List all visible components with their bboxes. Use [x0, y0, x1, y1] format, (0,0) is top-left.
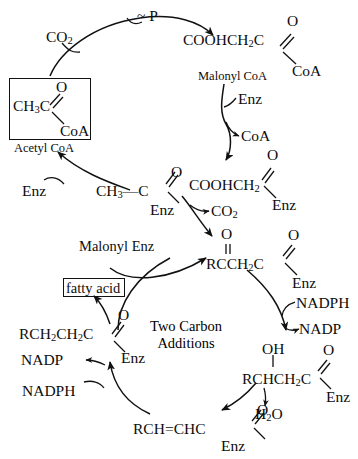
fatty-acid-label: fatty acid: [66, 281, 120, 296]
arrow-enz-in-hook-top: [224, 98, 236, 107]
acyl-carbonyl-oxygen: O: [118, 307, 129, 323]
acetyl-enz-carbonyl-oxygen: O: [171, 164, 182, 180]
ketoacyl-ketone-oxygen: O: [221, 226, 232, 242]
ketoacyl-carbonyl-oxygen: O: [288, 227, 299, 243]
malonyl-enz-thiol-label: Enz: [272, 197, 296, 213]
nadp-right-label: NADP: [299, 321, 341, 337]
malonyl-enz-carbonyl-oxygen: O: [267, 147, 278, 163]
malonyl-coa-structure: COOHCH2C: [183, 32, 264, 48]
acetyl-coa-carbonyl-oxygen: O: [56, 79, 67, 95]
acetyl-coa-caption: Acetyl CoA: [14, 142, 74, 155]
enoyl-enz-structure: RCH=CHC: [133, 421, 206, 437]
cycle-title-line2: Additions: [140, 335, 232, 352]
bond-hydroxyacyl-carbonyl-b: [321, 363, 330, 374]
hydroxyacyl-enz-thiol-label: Enz: [326, 389, 350, 405]
enoyl-carbonyl-oxygen: O: [257, 402, 268, 418]
acetyl-coa-structure: CH3C: [13, 98, 50, 114]
bond-ketoacyl-carbonyl-a: [283, 245, 292, 256]
acetyl-coa-thiol-label: CoA: [60, 123, 89, 139]
hydroxyacyl-carbonyl-oxygen: O: [323, 342, 334, 358]
hydroxyacyl-enz-structure: RCHCH2C: [242, 371, 311, 387]
nadph-right-label: NADPH: [296, 295, 349, 311]
bond-acyl-carbonyl-a: [112, 322, 121, 334]
ketoacyl-enz-thiol-label: Enz: [292, 275, 316, 291]
arrow-acyl-to-fatty-acid: [94, 296, 110, 324]
bond-acyl-carbonyl-b: [115, 325, 124, 337]
acetyl-enz-structure: CH3—C: [96, 183, 149, 199]
bond-malonylcoa-carbonyl-a: [280, 34, 291, 46]
malonyl-enz-name-label: Malonyl Enz: [79, 239, 154, 254]
malonyl-coa-name-label: Malonyl CoA: [198, 70, 267, 83]
arrow-condensation-to-ketoacyl: [182, 196, 212, 236]
acyl-enz-structure: RCH2CH2C: [19, 326, 93, 342]
bond-hydroxyacyl-carbonyl-a: [318, 360, 327, 371]
nadph-left-label: NADPH: [22, 383, 75, 399]
nadp-left-label: NADP: [21, 352, 63, 368]
ketoacyl-enz-structure: RCCH2C: [206, 256, 264, 272]
arrow-malonylcoa-to-malonylenz: [222, 84, 231, 160]
arrow-co2-release-hook: [190, 205, 209, 211]
bond-malonylenz-carbonyl-b: [265, 171, 274, 183]
arrow-nadp-out-hook-left: [86, 360, 105, 365]
bond-ketoacyl-carbonyl-b: [286, 248, 295, 259]
arrow-malonylenz-into-cycle: [110, 258, 206, 278]
co2-input-label: CO2: [46, 29, 73, 45]
malonyl-coa-thiol-label: CoA: [292, 63, 321, 79]
enz-released-left-label: Enz: [22, 183, 46, 199]
coa-released-label: CoA: [241, 128, 270, 144]
arrow-nadph-in-hook-left: [84, 381, 104, 388]
malonyl-coa-carbonyl-oxygen: O: [287, 13, 298, 29]
cycle-center-title: Two Carbon Additions: [140, 318, 232, 352]
arrow-hydroxyacyl-to-enoyl: [222, 383, 256, 410]
malonyl-enz-structure: COOHCH2: [189, 177, 260, 193]
bond-malonylenz-carbonyl-a: [262, 168, 271, 180]
bond-malonylcoa-carbonyl-b: [283, 37, 294, 49]
arrow-coa-out-hook: [226, 122, 239, 136]
acyl-enz-thiol-label: Enz: [121, 350, 145, 366]
acetyl-enz-thiol-label: Enz: [150, 202, 174, 218]
cycle-title-line1: Two Carbon: [140, 318, 232, 335]
arrow-nadph-in-hook-right: [282, 302, 295, 316]
enz-input-top-label: Enz: [238, 91, 262, 107]
hydroxyacyl-hydroxyl-label: OH: [262, 341, 284, 357]
arrow-enoyl-to-acyl: [110, 362, 150, 414]
enoyl-enz-thiol-label: Enz: [221, 438, 245, 454]
arrow-ketoacyl-to-hydroxyacyl: [247, 270, 286, 330]
bond-enoyl-thiol: [254, 428, 265, 439]
arrow-nadp-out-hook-right: [285, 328, 299, 330]
fatty-acid-synthesis-diagram: ~ P CO2 COOHCH2C O CoA Malonyl CoA Enz C…: [0, 0, 358, 459]
co2-released-label: CO2: [211, 203, 238, 219]
phosphate-label: ~ P: [137, 8, 158, 24]
arrow-enz-out-hook-left: [44, 178, 64, 184]
